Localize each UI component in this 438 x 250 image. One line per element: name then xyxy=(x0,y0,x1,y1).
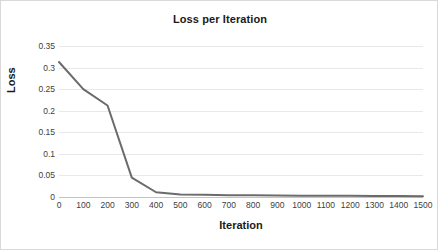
x-tick-label: 200 xyxy=(100,200,114,210)
y-axis-tick-labels: 00.050.10.150.20.250.30.35 xyxy=(1,1,55,250)
y-tick-label: 0.35 xyxy=(3,41,55,51)
y-tick-label: 0.25 xyxy=(3,84,55,94)
x-tick-label: 1400 xyxy=(389,200,408,210)
y-tick-label: 0 xyxy=(3,192,55,202)
x-tick-label: 1300 xyxy=(365,200,384,210)
x-tick-label: 1100 xyxy=(317,200,335,210)
gridline xyxy=(59,197,423,198)
y-tick-label: 0.3 xyxy=(3,63,55,73)
x-axis-title: Iteration xyxy=(59,219,423,231)
x-tick-label: 800 xyxy=(246,200,260,210)
x-tick-label: 1200 xyxy=(341,200,360,210)
chart-title: Loss per Iteration xyxy=(1,13,438,25)
x-tick-label: 100 xyxy=(76,200,90,210)
x-tick-label: 600 xyxy=(198,200,212,210)
x-tick-label: 1000 xyxy=(292,200,311,210)
y-tick-label: 0.1 xyxy=(3,149,55,159)
x-tick-label: 1500 xyxy=(414,200,433,210)
plot-area xyxy=(59,46,423,197)
chart-container: Loss per Iteration Loss 00.050.10.150.20… xyxy=(0,0,438,250)
y-tick-label: 0.15 xyxy=(3,127,55,137)
x-axis-tick-labels: 0100200300400500600700800900100011001200… xyxy=(59,200,423,214)
y-tick-label: 0.2 xyxy=(3,106,55,116)
x-tick-label: 900 xyxy=(270,200,284,210)
x-tick-label: 300 xyxy=(125,200,139,210)
loss-series-line xyxy=(59,46,423,197)
x-tick-label: 500 xyxy=(173,200,187,210)
y-tick-label: 0.05 xyxy=(3,170,55,180)
x-tick-label: 400 xyxy=(149,200,163,210)
x-tick-label: 700 xyxy=(222,200,236,210)
x-tick-label: 0 xyxy=(57,200,62,210)
